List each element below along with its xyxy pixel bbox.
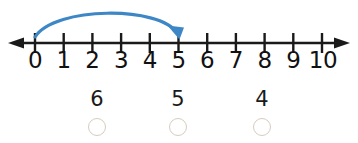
- tick-label-4: 4: [143, 46, 157, 74]
- tick-label-2: 2: [85, 46, 99, 74]
- tick-label-1: 1: [57, 46, 71, 74]
- answer-choice-1-radio[interactable]: [88, 118, 106, 136]
- tick-label-10: 10: [309, 46, 337, 74]
- worksheet-page: 0 1 2 3 4 5 6 7 8 9 10 6 5 4: [0, 0, 358, 143]
- answer-choice-1[interactable]: 6: [62, 86, 132, 136]
- jump-arc-icon: [35, 13, 177, 37]
- answer-choice-1-label: 6: [62, 86, 132, 112]
- answer-choice-3-radio[interactable]: [253, 118, 271, 136]
- tick-label-7: 7: [229, 46, 243, 74]
- number-line-figure: 0 1 2 3 4 5 6 7 8 9 10: [0, 0, 358, 78]
- tick-label-9: 9: [286, 46, 300, 74]
- tick-label-6: 6: [200, 46, 214, 74]
- tick-label-3: 3: [114, 46, 128, 74]
- answer-choice-3-label: 4: [227, 86, 297, 112]
- tick-label-8: 8: [258, 46, 272, 74]
- tick-label-5: 5: [171, 46, 185, 74]
- tick-label-0: 0: [28, 46, 42, 74]
- axis-tick-label-row: 0 1 2 3 4 5 6 7 8 9 10: [0, 46, 358, 76]
- answer-choice-2[interactable]: 5: [143, 86, 213, 136]
- answer-choice-3[interactable]: 4: [227, 86, 297, 136]
- jump-arc-arrowhead-icon: [168, 26, 185, 40]
- answer-choice-2-radio[interactable]: [169, 118, 187, 136]
- answer-choice-group: 6 5 4: [0, 86, 358, 143]
- answer-choice-2-label: 5: [143, 86, 213, 112]
